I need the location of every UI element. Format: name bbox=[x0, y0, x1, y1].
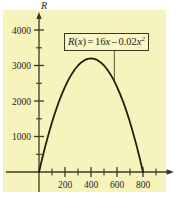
x-tick-label-200: 200 bbox=[58, 180, 73, 190]
equation-term1-coefficient: 16 bbox=[95, 36, 106, 47]
y-tick-label-1000: 1000 bbox=[12, 132, 31, 142]
x-tick-label-600: 600 bbox=[110, 180, 125, 190]
y-tick-label-3000: 3000 bbox=[12, 61, 31, 71]
x-tick-label-800: 800 bbox=[136, 180, 151, 190]
y-axis-label: R bbox=[40, 0, 47, 11]
x-axis bbox=[6, 169, 174, 174]
equation-term2-coefficient: 0.02 bbox=[118, 36, 136, 47]
chart-plot-area: 1000 2000 3000 4000 200 400 600 800 R bbox=[0, 0, 179, 204]
equation-annotation: R(x)=16x–0.02x2 bbox=[64, 33, 149, 51]
y-tick-label-2000: 2000 bbox=[12, 97, 31, 107]
revenue-curve bbox=[39, 58, 143, 172]
revenue-parabola-figure: 1000 2000 3000 4000 200 400 600 800 R R(… bbox=[0, 0, 179, 204]
y-tick-label-4000: 4000 bbox=[12, 26, 31, 36]
x-tick-label-400: 400 bbox=[84, 180, 99, 190]
equation-term2-exponent: 2 bbox=[141, 35, 145, 43]
equation-equals: = bbox=[86, 36, 95, 47]
